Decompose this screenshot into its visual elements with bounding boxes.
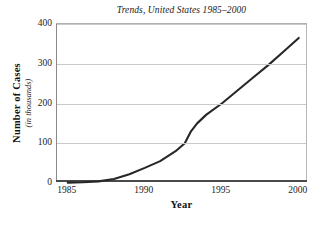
chart-title: Trends, United States 1985–2000 (56, 4, 307, 16)
chart-figure: Trends, United States 1985–2000 01002003… (0, 0, 322, 228)
gridline (57, 104, 306, 105)
x-tick-label: 1990 (124, 185, 164, 196)
gridline (57, 143, 306, 144)
y-axis-title-main: Number of Cases (11, 63, 23, 143)
x-tick-label: 2000 (278, 185, 318, 196)
gridline (57, 24, 306, 25)
plot-area (56, 23, 307, 182)
x-axis-title: Year (56, 199, 307, 211)
x-tick-label: 1995 (201, 185, 241, 196)
x-tick-label: 1985 (47, 185, 87, 196)
y-axis-title: Number of Cases (in thousands) (9, 13, 35, 193)
y-axis-title-units: (in thousands) (23, 79, 33, 128)
gridline (57, 64, 306, 65)
x-axis-tick-labels: 1985199019952000 (0, 185, 322, 199)
